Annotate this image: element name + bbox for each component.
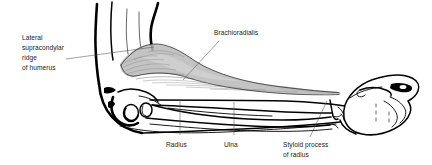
brachioradialis-muscle-group	[120, 44, 341, 95]
label-line-lateral: Lateral	[22, 34, 43, 41]
label-ulna: Ulna	[224, 141, 238, 148]
clenched-fist-group	[340, 75, 419, 135]
upper-arm-posterior-border	[95, 4, 99, 84]
label-lateral-supracondylar-ridge-of-humerus: Lateral supracondylar ridge of humerus	[22, 34, 65, 71]
label-line-supracondylar: supracondylar	[22, 44, 65, 52]
label-line-styloid-process: Styloid process	[283, 141, 329, 149]
radius-bone-group	[152, 105, 332, 120]
knuckle-highlight	[400, 85, 407, 89]
forearm-dorsal-border	[150, 100, 345, 106]
anatomy-figure: Lateral supracondylar ridge of humerus B…	[0, 0, 432, 165]
label-line-of-radius: of radius	[283, 151, 309, 158]
joint-shadow	[104, 87, 116, 93]
styloid-tip	[333, 115, 341, 117]
olecranon-shadow	[108, 101, 115, 108]
label-radius: Radius	[166, 141, 187, 148]
upper-arm-fascia-line-2	[139, 12, 141, 49]
upper-arm-anterior-border	[151, 3, 158, 50]
ulnar-styloid	[332, 124, 338, 128]
label-line-of-humerus: of humerus	[22, 64, 56, 71]
label-styloid-process-of-radius: Styloid process of radius	[283, 141, 329, 158]
upper-arm-fascia-line-1	[126, 9, 128, 54]
label-line-ridge: ridge	[22, 54, 37, 62]
fist-outline	[344, 75, 419, 135]
label-brachioradialis: Brachioradialis	[214, 29, 259, 36]
upper-arm-contour-inner	[111, 2, 113, 60]
anatomy-illustration: Lateral supracondylar ridge of humerus B…	[0, 0, 432, 165]
elbow-group	[99, 84, 162, 133]
